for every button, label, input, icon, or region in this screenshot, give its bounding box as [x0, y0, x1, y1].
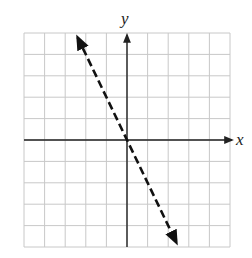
coordinate-plane: x y	[0, 0, 252, 258]
x-axis-label: x	[235, 130, 244, 149]
y-axis-label: y	[119, 9, 129, 28]
